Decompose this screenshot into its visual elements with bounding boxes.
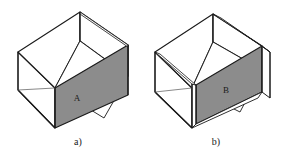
box-b-right-wall-thickness (262, 46, 270, 98)
face-label-b: B (223, 85, 229, 95)
face-label-a: A (74, 93, 81, 103)
caption-b: b) (212, 136, 220, 148)
caption-a: a) (74, 136, 82, 148)
box-b-front-wall-thickness (192, 84, 196, 128)
isometric-box-figure: A a) (0, 0, 287, 154)
